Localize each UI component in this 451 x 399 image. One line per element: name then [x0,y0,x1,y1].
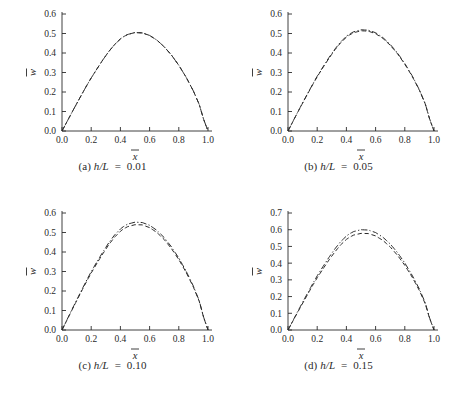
y-axis-label-group: w [27,69,39,77]
panel-d: 0.00.20.40.60.81.00.00.10.20.30.40.50.60… [226,199,451,398]
x-tick-label: 1.0 [202,334,214,344]
series-curve-1 [62,33,208,131]
y-tick-label: 0.3 [270,275,282,285]
caption-var-c: h/L [94,359,109,371]
y-tick-label: 0.2 [44,286,56,296]
chart-svg-c: 0.00.20.40.60.81.00.00.10.20.30.40.50.6x… [0,199,225,367]
y-tick-label: 0.5 [270,242,282,252]
panel-caption-d: (d) h/L = 0.15 [226,359,451,371]
plot-area-d: 0.00.20.40.60.81.00.00.10.20.30.40.50.60… [226,199,451,367]
y-tick-label: 0.0 [270,325,282,335]
y-tick-label: 0.4 [44,48,56,58]
caption-eq-b: = [338,160,350,172]
caption-tag-c: (c) [78,359,91,371]
x-tick-label: 0.8 [173,334,185,344]
x-tick-label: 1.0 [428,135,440,145]
caption-value-b: 0.05 [353,160,373,172]
chart-svg-d: 0.00.20.40.60.81.00.00.10.20.30.40.50.60… [226,199,451,367]
y-axis-label: w [253,268,264,275]
y-axis-label-group: w [27,268,39,276]
series-curve-2 [62,33,208,131]
y-tick-label: 0.4 [270,48,282,58]
y-tick-label: 0.3 [44,267,56,277]
caption-var-a: h/L [94,160,109,172]
x-tick-label: 0.8 [399,135,411,145]
caption-tag-a: (a) [78,160,91,172]
y-tick-label: 0.5 [270,29,282,39]
plot-area-a: 0.00.20.40.60.81.00.00.10.20.30.40.50.6x… [0,0,225,168]
y-tick-label: 0.2 [270,292,282,302]
y-tick-label: 0.3 [44,68,56,78]
y-tick-label: 0.0 [44,325,56,335]
y-tick-label: 0.4 [44,247,56,257]
y-tick-label: 0.2 [44,87,56,97]
panel-caption-b: (b) h/L = 0.05 [226,160,451,172]
x-tick-label: 0.2 [311,334,323,344]
y-tick-label: 0.1 [270,309,282,319]
x-tick-label: 1.0 [428,334,440,344]
y-axis-label-group: w [253,69,265,77]
x-tick-label: 0.2 [85,135,97,145]
y-tick-label: 0.0 [270,126,282,136]
series-curve-2 [62,225,208,330]
panel-a: 0.00.20.40.60.81.00.00.10.20.30.40.50.6x… [0,0,225,199]
caption-tag-d: (d) [304,359,317,371]
y-tick-label: 0.6 [44,9,56,19]
chart-svg-b: 0.00.20.40.60.81.00.00.10.20.30.40.50.6x… [226,0,451,168]
y-tick-label: 0.5 [44,228,56,238]
caption-tag-b: (b) [304,160,317,172]
x-tick-label: 0.2 [85,334,97,344]
x-tick-label: 0.6 [370,135,382,145]
panel-c: 0.00.20.40.60.81.00.00.10.20.30.40.50.6x… [0,199,225,398]
plot-area-c: 0.00.20.40.60.81.00.00.10.20.30.40.50.6x… [0,199,225,367]
x-tick-label: 0.0 [56,135,68,145]
caption-var-d: h/L [320,359,335,371]
x-tick-label: 0.6 [144,135,156,145]
series-curve-1 [62,222,208,330]
x-tick-label: 1.0 [202,135,214,145]
caption-value-d: 0.15 [353,359,373,371]
series-curve-1 [288,230,434,330]
caption-eq-a: = [112,160,124,172]
x-tick-label: 0.4 [340,334,352,344]
y-tick-label: 0.1 [44,306,56,316]
y-tick-label: 0.4 [270,259,282,269]
panel-caption-a: (a) h/L = 0.01 [0,160,225,172]
x-tick-label: 0.2 [311,135,323,145]
caption-eq-c: = [112,359,124,371]
caption-eq-d: = [338,359,350,371]
panel-b: 0.00.20.40.60.81.00.00.10.20.30.40.50.6x… [226,0,451,199]
x-tick-label: 0.0 [56,334,68,344]
x-tick-label: 0.0 [282,135,294,145]
x-tick-label: 0.8 [173,135,185,145]
y-tick-label: 0.1 [44,107,56,117]
y-axis-label: w [27,69,38,76]
series-curve-2 [288,233,434,330]
x-tick-label: 0.4 [340,135,352,145]
x-tick-label: 0.0 [282,334,294,344]
series-curve-1 [288,31,434,131]
y-tick-label: 0.6 [270,225,282,235]
caption-value-c: 0.10 [127,359,147,371]
x-tick-label: 0.4 [114,334,126,344]
x-tick-label: 0.4 [114,135,126,145]
y-axis-label: w [27,268,38,275]
y-tick-label: 0.0 [44,126,56,136]
series-curve-2 [288,30,434,131]
y-tick-label: 0.7 [270,208,282,218]
y-tick-label: 0.6 [44,208,56,218]
x-tick-label: 0.8 [399,334,411,344]
y-tick-label: 0.1 [270,107,282,117]
y-tick-label: 0.6 [270,9,282,19]
figure-root: 0.00.20.40.60.81.00.00.10.20.30.40.50.6x… [0,0,451,399]
plot-area-b: 0.00.20.40.60.81.00.00.10.20.30.40.50.6x… [226,0,451,168]
y-axis-label: w [253,69,264,76]
y-tick-label: 0.3 [270,68,282,78]
chart-svg-a: 0.00.20.40.60.81.00.00.10.20.30.40.50.6x… [0,0,225,168]
y-axis-label-group: w [253,268,265,276]
caption-value-a: 0.01 [127,160,147,172]
caption-var-b: h/L [320,160,335,172]
panel-caption-c: (c) h/L = 0.10 [0,359,225,371]
y-tick-label: 0.2 [270,87,282,97]
x-tick-label: 0.6 [370,334,382,344]
